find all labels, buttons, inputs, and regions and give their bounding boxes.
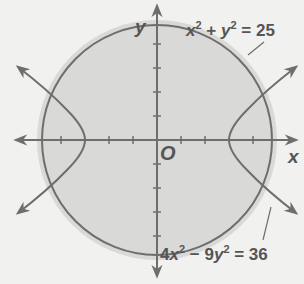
- hyperbola-eq-x: x: [169, 245, 178, 264]
- hyperbola-eq-coef2: 9: [204, 245, 213, 264]
- hyperbola-eq-x-exp: 2: [179, 243, 185, 255]
- hyperbola-eq-op: −: [185, 245, 204, 264]
- hyperbola-equation-label: 4x2 − 9y2 = 36: [160, 246, 268, 263]
- circle-eq-rhs: = 25: [237, 21, 275, 40]
- hyperbola-label-leader: [263, 207, 271, 240]
- x-axis-label: x: [288, 147, 299, 166]
- circle-eq-x-exp: 2: [195, 19, 201, 31]
- y-axis-label: y: [135, 17, 146, 36]
- hyperbola-eq-rhs: = 36: [230, 245, 268, 264]
- hyperbola-eq-y-exp: 2: [223, 243, 229, 255]
- hyperbola-eq-y: y: [214, 245, 223, 264]
- system-of-equations-graph: y x O x2 + y2 = 25 4x2 − 9y2 = 36: [0, 0, 304, 284]
- circle-equation-label: x2 + y2 = 25: [186, 22, 275, 39]
- graph-canvas: [0, 0, 304, 284]
- circle-label-leader: [248, 42, 264, 55]
- circle-eq-y-exp: 2: [230, 19, 236, 31]
- circle-eq-op: +: [202, 21, 221, 40]
- origin-label: O: [160, 143, 176, 163]
